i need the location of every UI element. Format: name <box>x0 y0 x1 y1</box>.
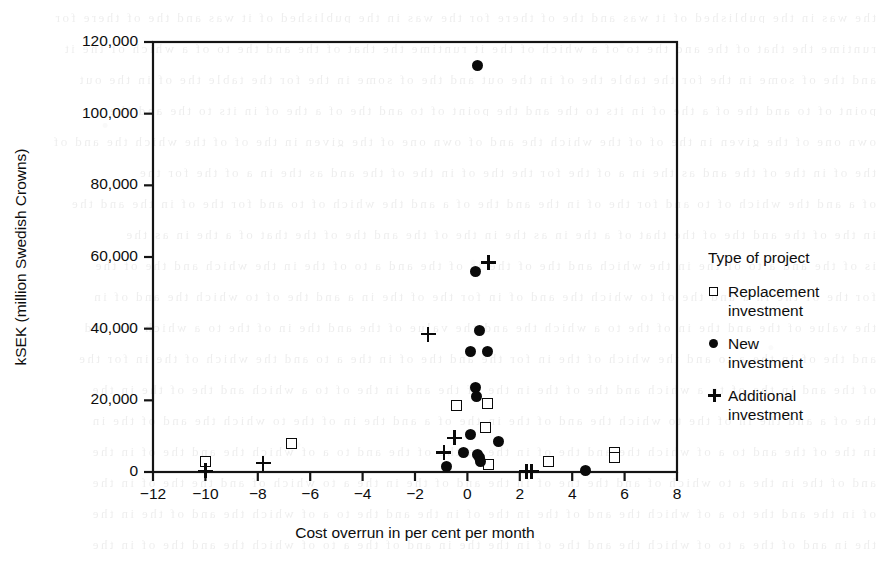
data-point-open-square <box>451 400 462 411</box>
data-point-filled-circle <box>493 436 504 447</box>
data-point-filled-circle <box>474 325 485 336</box>
data-point-filled-circle <box>465 429 476 440</box>
legend-item-new-investment[interactable]: New investment <box>708 334 872 372</box>
legend-item-label: New investment <box>728 334 803 372</box>
data-point-filled-circle <box>470 266 481 277</box>
data-point-open-square <box>609 452 620 463</box>
open-square-marker-icon <box>708 282 724 301</box>
data-point-plus <box>481 255 496 270</box>
legend-item-replacement-investment[interactable]: Replacement investment <box>708 282 872 320</box>
legend-title: Type of project <box>708 249 872 267</box>
data-point-filled-circle <box>580 465 591 476</box>
data-point-open-square <box>482 398 493 409</box>
data-point-open-square <box>480 422 491 433</box>
legend-item-label: Additional investment <box>728 386 803 424</box>
legend-item-label: Replacement investment <box>728 282 819 320</box>
data-point-plus <box>421 327 436 342</box>
data-point-plus <box>447 430 462 445</box>
data-point-plus <box>256 456 271 471</box>
data-point-plus <box>524 464 539 479</box>
legend: Type of project Replacement investment N… <box>708 249 872 438</box>
data-point-filled-circle <box>475 456 486 467</box>
data-point-filled-circle <box>472 60 483 71</box>
legend-item-additional-investment[interactable]: Additional investment <box>708 386 872 424</box>
scatter-plot-figure: kSEK (million Swedish Crowns) Cost overr… <box>0 0 876 570</box>
data-point-filled-circle <box>471 391 482 402</box>
data-point-open-square <box>286 438 297 449</box>
data-point-open-square <box>543 456 554 467</box>
filled-circle-marker-icon <box>708 334 724 353</box>
data-point-plus <box>198 463 213 478</box>
data-point-filled-circle <box>441 461 452 472</box>
data-point-filled-circle <box>465 346 476 357</box>
data-point-filled-circle <box>482 346 493 357</box>
plus-marker-icon <box>708 386 724 405</box>
data-point-plus <box>436 445 451 460</box>
data-point-filled-circle <box>458 447 469 458</box>
